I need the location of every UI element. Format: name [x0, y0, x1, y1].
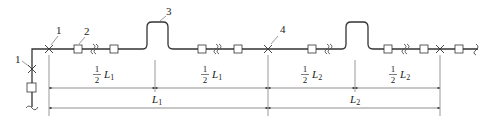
- callout-4: 4: [280, 23, 286, 35]
- svg-text:2: 2: [95, 75, 100, 85]
- callout-2: 2: [84, 25, 90, 37]
- sliding-support-icon: [308, 45, 316, 53]
- sliding-support-icon: [110, 45, 118, 53]
- svg-text:2: 2: [391, 75, 396, 85]
- half-L2-label-a: 1 2 L2: [301, 64, 322, 85]
- callout-1b: 1: [15, 53, 21, 65]
- svg-text:1: 1: [391, 64, 396, 74]
- sliding-support-icon: [74, 45, 82, 53]
- svg-text:L2: L2: [399, 68, 410, 82]
- extension-lines: [49, 55, 440, 116]
- half-L1-label-b: 1 2 L1: [201, 64, 222, 85]
- svg-text:1: 1: [203, 64, 208, 74]
- dimension-labels-row-1: 1 2 L1 1 2 L1 1 2 L2 1 2 L2: [93, 64, 410, 85]
- svg-text:L1: L1: [211, 68, 222, 82]
- L1-label: L1: [151, 93, 162, 107]
- svg-text:1: 1: [95, 64, 100, 74]
- svg-text:2: 2: [203, 75, 208, 85]
- sliding-support-icon: [234, 45, 242, 53]
- sliding-support-icon: [198, 45, 206, 53]
- sliding-support-icon: [384, 45, 392, 53]
- svg-text:L1: L1: [103, 68, 114, 82]
- L2-label: L2: [349, 93, 360, 107]
- callout-3: 3: [166, 5, 172, 17]
- half-L1-label-a: 1 2 L1: [93, 64, 114, 85]
- sliding-support-icon: [27, 83, 36, 92]
- svg-text:2: 2: [303, 75, 308, 85]
- svg-text:1: 1: [303, 64, 308, 74]
- sliding-support-icon: [420, 45, 428, 53]
- half-L2-label-b: 1 2 L2: [389, 64, 410, 85]
- callout-labels: 1 1 2 3 4: [15, 5, 286, 65]
- callout-1a: 1: [56, 24, 62, 36]
- dimension-labels-row-2: L1 L2: [151, 93, 360, 107]
- sliding-support-icon: [455, 45, 463, 53]
- pipeline-diagram: 1 1 2 3 4 1 2 L1 1 2 L1 1 2 L2 1 2 L2: [0, 0, 483, 127]
- svg-text:L2: L2: [311, 68, 322, 82]
